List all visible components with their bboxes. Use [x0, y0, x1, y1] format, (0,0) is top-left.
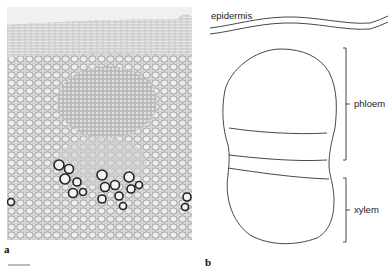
caption-fragment: [8, 264, 30, 266]
xylem-bracket: [343, 178, 350, 242]
micrograph-panel: [7, 7, 192, 240]
xylem-label: xylem: [354, 204, 379, 215]
cambium-line-2: [228, 168, 329, 179]
epidermis-label: epidermis: [211, 10, 252, 21]
bundle-outline: [223, 49, 336, 244]
cambium-line-1: [229, 155, 327, 161]
phloem-bracket: [343, 48, 350, 160]
line-drawing-panel: epidermis phloem xylem: [195, 0, 391, 270]
phloem-boundary-1: [229, 128, 327, 134]
phloem-label: phloem: [354, 98, 385, 109]
panel-label-b: b: [205, 256, 211, 268]
stem-cross-section-image: [7, 7, 192, 240]
panel-label-a: a: [4, 243, 10, 255]
stem-diagram: [195, 0, 391, 270]
